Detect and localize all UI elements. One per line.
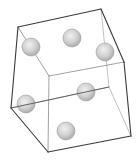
cube-wireframe-figure [0,0,140,166]
spheres [11,29,114,140]
outer-edge-CD [124,62,131,136]
sphere-6 [57,122,75,140]
inner-edge-GC [49,62,124,76]
sphere-1 [22,38,40,56]
sphere-2 [63,29,81,47]
outer-edge-FA [11,27,18,108]
hidden-edges [11,9,131,136]
sphere-3 [96,43,114,61]
hidden-edge-HD [109,87,131,136]
outer-edge-EF [11,108,48,152]
cube-diagram [0,0,140,166]
outer-edge-AB [18,9,101,27]
inner-edge-GE [48,76,49,152]
sphere-5 [17,95,35,113]
